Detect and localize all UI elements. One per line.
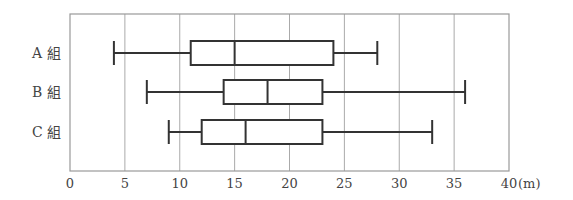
iqr-box — [224, 80, 323, 104]
row-label-b: B 組 — [32, 84, 61, 100]
x-tick-label: 0 — [66, 176, 74, 191]
boxplot-a — [114, 41, 377, 65]
x-tick-label: 35 — [446, 176, 463, 191]
row-label-a: A 組 — [31, 45, 61, 61]
x-axis-ticks: 0510152025303540(m) — [66, 176, 541, 191]
iqr-box — [191, 41, 334, 65]
boxplot-chart: 0510152025303540(m) A 組B 組C 組 — [0, 0, 573, 200]
boxplot-b — [147, 80, 465, 104]
x-tick-label: 15 — [226, 176, 243, 191]
x-unit-label: (m) — [518, 176, 540, 191]
x-tick-label: 5 — [121, 176, 129, 191]
x-tick-label: 40 — [501, 176, 518, 191]
iqr-box — [202, 120, 323, 144]
x-tick-label: 25 — [336, 176, 353, 191]
row-labels: A 組B 組C 組 — [31, 45, 61, 140]
x-tick-label: 20 — [281, 176, 298, 191]
x-tick-label: 30 — [391, 176, 408, 191]
row-label-c: C 組 — [32, 124, 61, 140]
x-tick-label: 10 — [171, 176, 188, 191]
boxplot-c — [169, 120, 432, 144]
box-plots — [114, 41, 465, 144]
